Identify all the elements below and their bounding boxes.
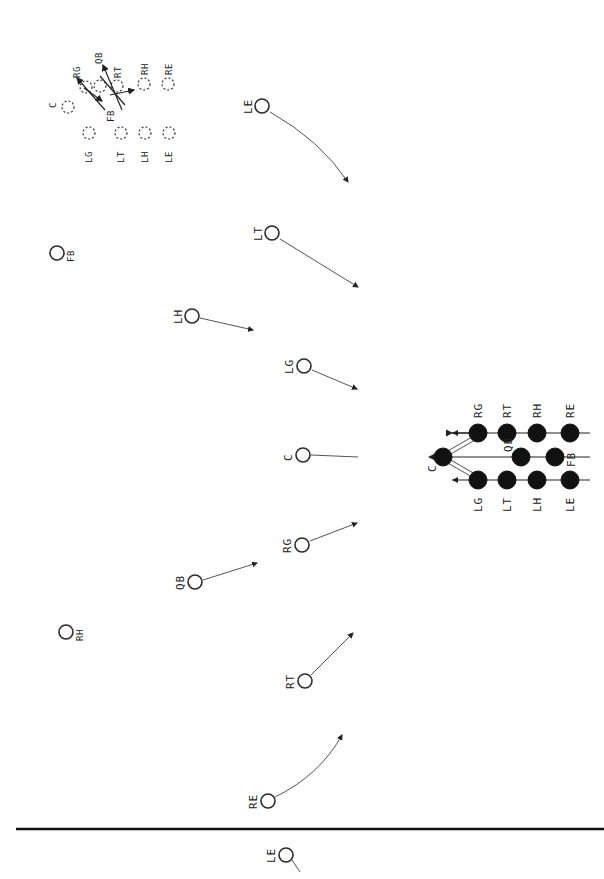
svg-text:LT: LT xyxy=(252,226,265,241)
inset-formation: C RG QB RT RH RE FB LG LT LH LE xyxy=(48,52,175,163)
svg-text:RT: RT xyxy=(501,403,514,418)
svg-text:LE: LE xyxy=(164,151,174,163)
svg-text:RE: RE xyxy=(247,794,260,809)
svg-text:RT: RT xyxy=(113,66,123,78)
svg-text:FB: FB xyxy=(565,452,578,467)
svg-text:LT: LT xyxy=(501,497,514,512)
svg-text:LH: LH xyxy=(531,497,544,512)
svg-text:LH: LH xyxy=(172,309,185,324)
svg-text:LE: LE xyxy=(564,497,577,512)
play-diagram: C RG QB RT RH RE FB LG LT LH LE LE FB LT… xyxy=(0,0,604,879)
svg-text:QB: QB xyxy=(502,437,515,452)
svg-text:LH: LH xyxy=(140,151,150,163)
svg-text:C: C xyxy=(282,453,295,461)
svg-text:LG: LG xyxy=(472,497,485,512)
svg-text:FB: FB xyxy=(66,250,76,262)
svg-text:C: C xyxy=(426,464,439,472)
svg-text:C: C xyxy=(48,102,58,108)
svg-text:RH: RH xyxy=(140,63,150,75)
svg-text:RG: RG xyxy=(472,403,485,418)
svg-text:RG: RG xyxy=(72,66,82,78)
svg-text:QB: QB xyxy=(174,575,187,590)
offense-players: RG RT RH RE C QB FB LG LT LH LE xyxy=(426,403,590,512)
svg-text:LE: LE xyxy=(265,848,278,863)
svg-text:LG: LG xyxy=(84,151,94,163)
svg-text:RH: RH xyxy=(531,403,544,418)
svg-text:RT: RT xyxy=(284,674,297,689)
svg-text:LE: LE xyxy=(242,99,255,114)
svg-text:FB: FB xyxy=(106,110,116,122)
svg-text:QB: QB xyxy=(94,52,104,64)
svg-text:RE: RE xyxy=(164,63,174,75)
svg-text:LG: LG xyxy=(283,359,296,374)
svg-text:LT: LT xyxy=(116,151,126,163)
svg-text:RG: RG xyxy=(281,538,294,553)
svg-text:RE: RE xyxy=(564,403,577,418)
defense-players: LE FB LT LH LG C RG QB RH RT xyxy=(50,99,358,872)
svg-text:RH: RH xyxy=(75,629,85,641)
